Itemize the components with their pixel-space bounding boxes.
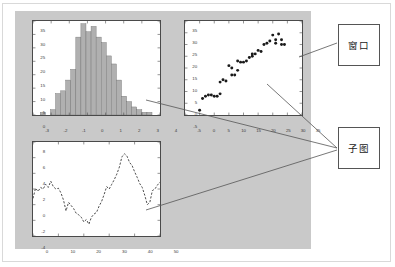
screenshot-root: -3-2-10123405101520253035 -5051015202530… (0, 0, 395, 267)
tick-label: 20 (96, 250, 101, 254)
tick-label: 15 (256, 129, 261, 133)
tick-label: 30 (36, 43, 45, 47)
scatter-tick-marks (185, 21, 302, 115)
figure-window[interactable]: -3-2-10123405101520253035 -5051015202530… (15, 11, 311, 249)
histogram-bars (40, 24, 152, 115)
tick-label: 15 (188, 77, 197, 81)
tick-label: 35 (36, 29, 45, 33)
tick-label: 3 (156, 129, 158, 133)
line-plot (33, 142, 160, 236)
tick-label: 10 (241, 129, 246, 133)
tick-label: 30 (301, 129, 306, 133)
callout-subplot-label: 子图 (348, 141, 370, 155)
tick-label: -2 (64, 129, 68, 133)
line-axes[interactable] (32, 141, 161, 237)
scatter-points (198, 32, 286, 111)
line-tick-marks (33, 142, 160, 236)
tick-label: 10 (36, 97, 45, 101)
tick-label: 2 (36, 198, 45, 202)
tick-label: 8 (36, 150, 45, 154)
histogram-axes[interactable] (32, 20, 161, 116)
tick-label: 5 (188, 101, 197, 105)
tick-label: 10 (70, 250, 75, 254)
line-series (33, 154, 160, 225)
tick-label: 0 (36, 214, 45, 218)
tick-label: 20 (271, 129, 276, 133)
tick-label: 15 (36, 84, 45, 88)
tick-label: 4 (175, 129, 177, 133)
tick-label: 6 (36, 166, 45, 170)
tick-label: 0 (101, 129, 103, 133)
callout-window[interactable]: 窗口 (338, 24, 380, 66)
tick-label: 0 (213, 129, 215, 133)
tick-label: 2 (138, 129, 140, 133)
tick-label: 5 (36, 111, 45, 115)
tick-label: 25 (188, 53, 197, 57)
scatter-plot (185, 21, 302, 115)
tick-label: -1 (82, 129, 86, 133)
tick-label: 5 (228, 129, 230, 133)
tick-label: -5 (188, 125, 197, 129)
tick-label: 40 (148, 250, 153, 254)
scatter-axes[interactable] (184, 20, 303, 116)
callout-window-label: 窗口 (348, 38, 370, 52)
tick-label: 1 (120, 129, 122, 133)
tick-label: 25 (286, 129, 291, 133)
tick-label: 0 (46, 250, 48, 254)
tick-label: 10 (188, 89, 197, 93)
tick-label: 30 (188, 41, 197, 45)
tick-label: 20 (188, 65, 197, 69)
tick-label: 50 (174, 250, 179, 254)
callout-subplot[interactable]: 子图 (338, 127, 380, 169)
tick-label: -4 (36, 246, 45, 250)
histogram-plot (33, 21, 160, 115)
tick-label: 30 (122, 250, 127, 254)
tick-label: 0 (188, 113, 197, 117)
tick-label: -5 (197, 129, 201, 133)
tick-label: 35 (316, 129, 321, 133)
tick-label: 4 (36, 182, 45, 186)
tick-label: 20 (36, 70, 45, 74)
tick-label: -3 (45, 129, 49, 133)
tick-label: 25 (36, 56, 45, 60)
tick-label: 0 (36, 125, 45, 129)
tick-label: -2 (36, 230, 45, 234)
tick-label: 35 (188, 29, 197, 33)
